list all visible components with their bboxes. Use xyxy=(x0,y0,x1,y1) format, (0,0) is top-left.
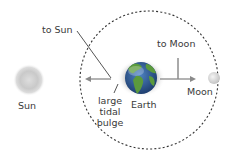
moon-label: Moon xyxy=(187,86,213,97)
moon-icon xyxy=(208,72,220,84)
earth-label: Earth xyxy=(131,99,156,110)
bulge-label-line1: large xyxy=(93,95,127,106)
to-sun-label: to Sun xyxy=(42,24,73,35)
moon-arrowhead-icon xyxy=(190,76,196,82)
bulge-label-line3: bulge xyxy=(93,117,127,128)
sun-label: Sun xyxy=(18,100,36,111)
sun-arrowhead-icon xyxy=(85,76,91,82)
earth-icon xyxy=(125,62,157,94)
bulge-pointer-line xyxy=(114,84,118,93)
tidal-bulge-label: large tidal bulge xyxy=(93,95,127,128)
to-moon-label: to Moon xyxy=(157,38,195,49)
tidal-bulge-diagram xyxy=(0,0,228,155)
bulge-label-line2: tidal xyxy=(93,106,127,117)
sun-icon xyxy=(13,64,45,96)
